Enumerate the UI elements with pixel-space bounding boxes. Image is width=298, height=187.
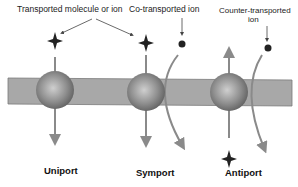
star-molecule-symport (138, 34, 154, 52)
star-molecule-uniport (47, 32, 63, 50)
label-counter-transported-2: ion (248, 15, 259, 24)
title-symport: Symport (136, 167, 175, 178)
uniport-carrier (36, 71, 74, 109)
star-molecule-antiport (221, 150, 237, 168)
title-uniport: Uniport (44, 165, 78, 176)
label-co-transported: Co-transported ion (129, 4, 199, 14)
counter-transported-ion (265, 45, 272, 52)
label-counter-transported-1: Counter-transported (219, 6, 291, 15)
antiport-carrier (210, 73, 248, 111)
title-antiport: Antiport (225, 167, 262, 178)
transport-diagram (0, 0, 298, 187)
label-transported: Transported molecule or ion (17, 4, 123, 14)
co-transported-ion (179, 41, 186, 48)
symport-carrier (127, 73, 165, 111)
